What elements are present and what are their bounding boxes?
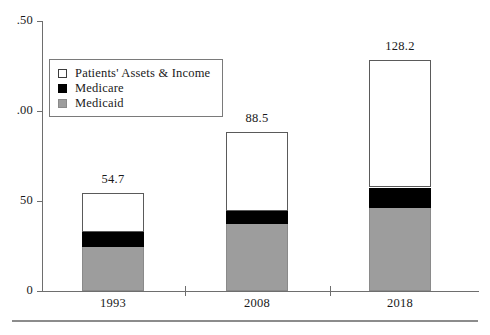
- stacked-bar-chart: 050.00.50 54.788.5128.2 1993 2008 2018 P…: [0, 0, 490, 335]
- legend-label-medicare: Medicare: [75, 82, 124, 95]
- bar-segment-medicaid-1993: [82, 247, 144, 291]
- y-tick-mark-150: [37, 21, 43, 22]
- x-tick-mark-1: [185, 286, 186, 296]
- x-tick-label-2008: 2008: [226, 297, 288, 310]
- bar-segment-medicaid-2018: [369, 208, 431, 291]
- bar-total-label-2008: 88.5: [212, 112, 302, 125]
- gray-square-swatch-icon: [58, 99, 67, 108]
- legend-label-medicaid: Medicaid: [75, 97, 124, 110]
- y-tick-label-0: 0: [0, 284, 33, 297]
- footer-rule: [12, 320, 478, 322]
- bar-segment-medicare-1993: [82, 232, 144, 247]
- y-tick-mark-0: [37, 291, 43, 292]
- x-tick-label-1993: 1993: [82, 297, 144, 310]
- black-square-swatch-icon: [58, 84, 67, 93]
- y-tick-label-.50: .50: [0, 14, 33, 27]
- chart-legend: Patients' Assets & Income Medicare Medic…: [49, 59, 223, 117]
- bar-segment-medicare-2018: [369, 188, 431, 209]
- x-axis-line: [42, 291, 479, 292]
- y-tick-mark-100: [37, 111, 43, 112]
- bar-segment-assets-2018: [369, 60, 431, 187]
- y-tick-mark-50: [37, 201, 43, 202]
- legend-item-assets: Patients' Assets & Income: [58, 66, 210, 80]
- x-tick-label-2018: 2018: [369, 297, 431, 310]
- bar-segment-medicaid-2008: [226, 224, 288, 291]
- bar-total-label-2018: 128.2: [355, 40, 445, 53]
- y-tick-label-.00: .00: [0, 104, 33, 117]
- bar-segment-assets-1993: [82, 193, 144, 232]
- bar-segment-medicare-2008: [226, 211, 288, 225]
- bar-total-label-1993: 54.7: [68, 173, 158, 186]
- bar-segment-assets-2008: [226, 132, 288, 211]
- legend-item-medicaid: Medicaid: [58, 96, 210, 110]
- y-tick-label-50: 50: [0, 194, 33, 207]
- white-square-swatch-icon: [58, 69, 67, 78]
- y-axis-line: [42, 21, 43, 292]
- legend-label-assets: Patients' Assets & Income: [75, 67, 210, 80]
- legend-item-medicare: Medicare: [58, 81, 210, 95]
- x-tick-mark-2: [330, 286, 331, 296]
